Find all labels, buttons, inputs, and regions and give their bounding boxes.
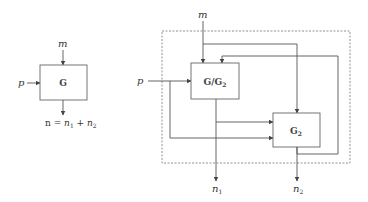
output-n1-label: n1	[212, 183, 222, 195]
block-g-label: G	[59, 78, 67, 88]
input-m-label: m	[58, 38, 67, 49]
input-m-label-right: m	[198, 9, 207, 20]
left-diagram: m p G n = n1 + n2	[18, 38, 97, 129]
input-p-label-right: p	[137, 75, 144, 86]
output-n2-label: n2	[293, 183, 303, 195]
right-diagram: m p G/G2 G2 n1 n2	[137, 9, 350, 195]
diagram-canvas: m p G n = n1 + n2 m p G/G2 G2 n1 n2	[0, 0, 368, 202]
output-equation: n = n1 + n2	[45, 118, 97, 129]
system-boundary	[162, 31, 350, 163]
input-p-label: p	[18, 77, 25, 88]
